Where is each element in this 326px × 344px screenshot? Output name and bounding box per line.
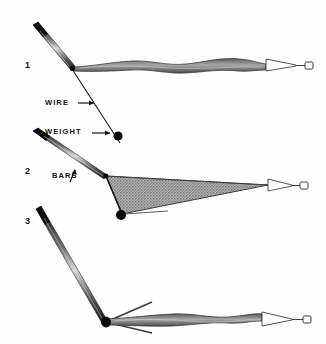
panel-2-net-open — [106, 176, 268, 214]
wire-label: WIRE — [45, 98, 69, 107]
panel-1-end-ring — [305, 62, 313, 69]
wire-callout — [78, 101, 94, 106]
panel-2-upper-bar-highlight — [44, 136, 103, 176]
panel-3-end-ring — [303, 316, 311, 323]
panel-3-group — [36, 206, 311, 333]
net-deployment-figure — [0, 0, 326, 344]
panel-number-1: 1 — [25, 60, 31, 70]
panel-2-weight-ball — [116, 210, 126, 220]
panel-1-group — [33, 22, 313, 143]
weight-arrow-head-icon — [105, 131, 110, 136]
panel-1-net-body — [73, 59, 266, 74]
panel-number-3: 3 — [25, 216, 31, 226]
panel-1-junction — [70, 66, 75, 71]
weight-label: WEIGHT — [45, 127, 82, 136]
panel-number-2: 2 — [25, 166, 31, 176]
panel-1-weight-ball — [113, 131, 122, 140]
panel-2-end-ring — [300, 182, 308, 189]
panel-3-bar-highlight — [44, 218, 103, 320]
panel-3-cod-end — [262, 312, 292, 326]
weight-callout — [92, 131, 123, 141]
panel-2-apex-junction — [104, 174, 109, 179]
panel-1-bar-tip — [33, 22, 48, 37]
panel-1-cod-end — [266, 59, 296, 71]
panel-3-junction — [101, 317, 111, 328]
panel-2-cod-end — [268, 179, 292, 191]
panel-3-bar-tip — [36, 206, 50, 225]
panel-1-bar-highlight — [40, 31, 69, 66]
bars-label: BARS — [52, 171, 78, 180]
